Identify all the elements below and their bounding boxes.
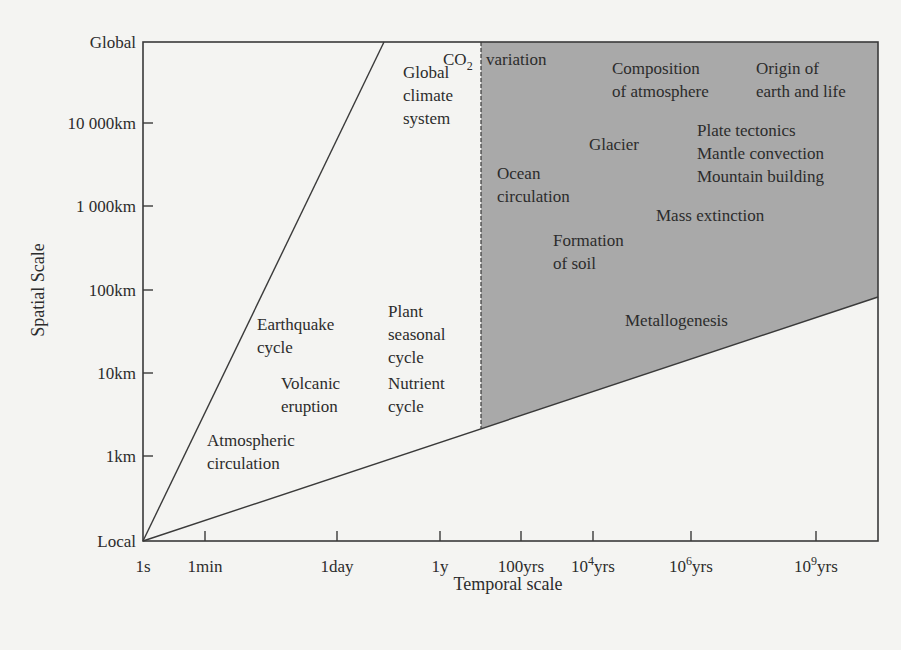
phenomenon-label-line: circulation	[497, 187, 570, 206]
phenomenon-label-line: of atmosphere	[612, 82, 709, 101]
phenomenon-label-line: Mantle convection	[697, 144, 824, 163]
phenomenon-label-line: Formation	[553, 231, 624, 250]
phenomenon-label: Earthquakecycle	[257, 315, 334, 357]
phenomenon-label: Atmosphericcirculation	[207, 431, 295, 473]
phenomenon-label: Mass extinction	[656, 206, 765, 225]
x-tick-label: 1y	[432, 557, 450, 576]
phenomenon-label-line: Origin of	[756, 59, 819, 78]
x-tick-label: 109yrs	[794, 554, 838, 576]
y-tick-label: Global	[90, 33, 137, 52]
diagram-stage: Local1km10km100km1 000km10 000kmGlobal1s…	[0, 0, 901, 650]
phenomenon-label: Glacier	[589, 135, 639, 154]
y-tick-label: 1km	[106, 447, 136, 466]
x-tick-label: 106yrs	[669, 554, 713, 576]
phenomenon-label-line: eruption	[281, 397, 338, 416]
phenomenon-label-line: Plant	[388, 302, 423, 321]
phenomenon-label-line: cycle	[257, 338, 293, 357]
spatial-temporal-scale-diagram: Local1km10km100km1 000km10 000kmGlobal1s…	[0, 0, 901, 650]
x-tick-label: 104yrs	[571, 554, 615, 576]
phenomenon-label-line: circulation	[207, 454, 280, 473]
phenomenon-label-line: Mountain building	[697, 167, 825, 186]
phenomenon-label-line: Metallogenesis	[625, 311, 728, 330]
x-axis-title: Temporal scale	[453, 574, 562, 594]
x-tick-label: 1min	[188, 557, 223, 576]
phenomenon-label-line: Ocean	[497, 164, 541, 183]
phenomenon-label: Plantseasonalcycle	[388, 302, 446, 367]
y-tick-label: 1 000km	[76, 197, 136, 216]
y-tick-label: 10km	[97, 364, 136, 383]
phenomenon-label: Metallogenesis	[625, 311, 728, 330]
y-tick-label: Local	[97, 532, 136, 551]
y-axis-title: Spatial Scale	[28, 243, 48, 336]
phenomenon-label-line: earth and life	[756, 82, 846, 101]
phenomenon-label-line: Composition	[612, 59, 700, 78]
phenomenon-label: Globalclimatesystem	[403, 63, 453, 128]
phenomenon-label-line: Mass extinction	[656, 206, 765, 225]
phenomenon-label-line: Earthquake	[257, 315, 334, 334]
phenomenon-label-line: Plate tectonics	[697, 121, 796, 140]
phenomenon-label-line: climate	[403, 86, 453, 105]
phenomenon-label-line: system	[403, 109, 450, 128]
y-tick-label: 10 000km	[68, 114, 136, 133]
phenomenon-label-line: of soil	[553, 254, 596, 273]
phenomenon-label-line: cycle	[388, 348, 424, 367]
phenomenon-label-line: Volcanic	[281, 374, 341, 393]
x-tick-label: 1day	[320, 557, 354, 576]
phenomenon-label-line: Nutrient	[388, 374, 445, 393]
y-tick-label: 100km	[89, 281, 136, 300]
phenomenon-label-line: cycle	[388, 397, 424, 416]
x-tick-label: 1s	[135, 557, 150, 576]
phenomenon-label-line: Atmospheric	[207, 431, 295, 450]
phenomenon-label-line: Glacier	[589, 135, 639, 154]
phenomenon-label: Volcaniceruption	[281, 374, 341, 416]
phenomenon-label-line: seasonal	[388, 325, 446, 344]
phenomenon-label: Nutrientcycle	[388, 374, 445, 416]
